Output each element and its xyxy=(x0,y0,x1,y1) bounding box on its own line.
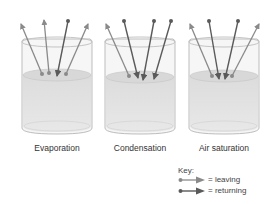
legend-leaving-text: = leaving xyxy=(208,175,240,184)
returning-arrow-icon xyxy=(178,187,206,195)
beaker-condensation xyxy=(105,19,176,134)
legend-item-returning: = returning xyxy=(178,186,246,195)
legend-returning-text: = returning xyxy=(208,186,246,195)
legend-item-leaving: = leaving xyxy=(178,175,240,184)
beaker-label-evaporation: Evaporation xyxy=(17,143,97,153)
beaker-label-condensation: Condensation xyxy=(100,143,180,153)
beakers-diagram xyxy=(0,0,268,204)
beaker-label-air-saturation: Air saturation xyxy=(184,143,264,153)
beaker-air-saturation xyxy=(189,19,260,134)
leaving-arrow-icon xyxy=(178,176,206,184)
beaker-evaporation xyxy=(21,19,92,134)
legend-title: Key: xyxy=(178,166,194,175)
